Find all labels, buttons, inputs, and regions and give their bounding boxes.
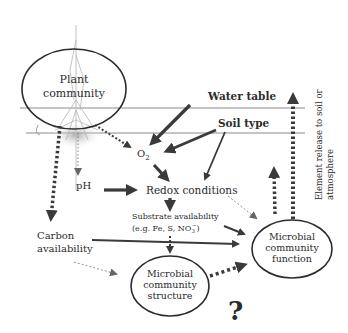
ph-label: pH bbox=[76, 180, 91, 191]
redox-conditions-label: Redox conditions bbox=[146, 184, 238, 196]
svg-text:Microbial: Microbial bbox=[269, 231, 315, 242]
microbial-structure-node: Microbial community structure bbox=[131, 256, 209, 316]
arrow-soil-to-redox bbox=[205, 132, 225, 179]
arrow-substrate-to-function bbox=[224, 226, 244, 234]
svg-text:community: community bbox=[265, 242, 319, 253]
svg-text:Element release to soil or: Element release to soil or bbox=[314, 88, 324, 200]
arrow-redox-to-function bbox=[228, 196, 256, 218]
svg-text:structure: structure bbox=[148, 290, 193, 301]
arrow-structure-to-function bbox=[210, 265, 244, 276]
soil-microbial-diagram: Plant community Water table Soil type O2… bbox=[0, 0, 348, 333]
svg-text:community: community bbox=[143, 279, 197, 290]
question-mark: ? bbox=[228, 296, 243, 326]
arrow-carbon-to-structure bbox=[74, 262, 116, 274]
soil-type-label: Soil type bbox=[218, 117, 270, 129]
substrate-availability-label-2: (e.g. Fe, S, NO3−) bbox=[132, 222, 200, 234]
svg-text:atmosphere: atmosphere bbox=[325, 149, 335, 200]
arrow-water-to-o2 bbox=[152, 105, 190, 143]
plant-community-label-1: Plant bbox=[60, 73, 90, 86]
microbial-function-node: Microbial community function bbox=[252, 220, 332, 278]
svg-text:function: function bbox=[272, 253, 312, 264]
element-release-label: Element release to soil or atmosphere bbox=[314, 88, 335, 200]
svg-text:Microbial: Microbial bbox=[147, 268, 193, 279]
water-table-label: Water table bbox=[207, 90, 276, 102]
carbon-availability-label-2: availability bbox=[37, 243, 93, 254]
arrow-carbon-to-function bbox=[92, 240, 238, 244]
arrow-function-diagonal bbox=[274, 170, 275, 214]
arrow-o2-to-redox bbox=[154, 165, 167, 179]
carbon-availability-label-1: Carbon bbox=[37, 230, 75, 241]
substrate-availability-label-1: Substrate availability bbox=[132, 212, 219, 221]
o2-label: O2 bbox=[137, 148, 150, 162]
plant-community-label-2: community bbox=[43, 87, 106, 100]
